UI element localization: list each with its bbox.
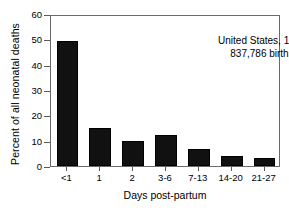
- x-tick: [198, 167, 199, 171]
- bar: [57, 41, 79, 166]
- bar: [254, 158, 276, 166]
- annotation-line-2: 837,786 births: [201, 48, 289, 61]
- bar: [221, 156, 243, 166]
- y-tick-label: 50: [14, 35, 42, 45]
- x-tick-label: 1: [83, 173, 116, 183]
- x-tick-label: <1: [50, 173, 83, 183]
- x-tick-label: 7-13: [181, 173, 214, 183]
- x-tick: [99, 167, 100, 171]
- y-tick-label: 20: [14, 111, 42, 121]
- y-tick-label: 40: [14, 61, 42, 71]
- y-tick: [44, 167, 50, 168]
- x-axis-title: Days post-partum: [50, 189, 280, 201]
- x-tick: [66, 167, 67, 171]
- bar: [155, 135, 177, 166]
- bar: [89, 128, 111, 167]
- x-tick-label: 21-27: [247, 173, 280, 183]
- bar: [122, 141, 144, 166]
- x-tick: [165, 167, 166, 171]
- y-tick-label: 60: [14, 10, 42, 20]
- chart-annotation: United States, 1950 837,786 births: [201, 35, 289, 60]
- plot-area: United States, 1950 837,786 births: [50, 15, 280, 167]
- bar-chart-figure: Percent of all neonatal deaths 010203040…: [0, 0, 289, 210]
- x-tick: [264, 167, 265, 171]
- annotation-line-1: United States, 1950: [201, 35, 289, 48]
- x-tick-label: 3-6: [149, 173, 182, 183]
- x-tick: [231, 167, 232, 171]
- bar: [188, 149, 210, 166]
- y-tick-label: 30: [14, 86, 42, 96]
- x-tick: [132, 167, 133, 171]
- y-tick-label: 10: [14, 137, 42, 147]
- x-tick-label: 2: [116, 173, 149, 183]
- y-tick-label: 0: [14, 162, 42, 172]
- x-tick-label: 14-20: [214, 173, 247, 183]
